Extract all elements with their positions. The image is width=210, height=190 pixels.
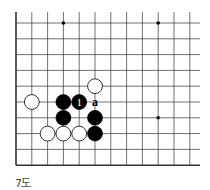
- star-point: [62, 21, 66, 25]
- black-stone: [88, 126, 103, 141]
- point-marker: a: [92, 95, 98, 109]
- black-stone: [88, 110, 103, 125]
- white-stone: [40, 126, 55, 141]
- go-board: 1a: [0, 0, 210, 172]
- star-point: [156, 116, 160, 120]
- diagram-caption: 7도: [15, 174, 31, 190]
- white-stone: [56, 126, 71, 141]
- black-stone: [56, 95, 71, 110]
- white-stone: [88, 79, 103, 94]
- move-number: 1: [76, 96, 82, 108]
- white-stone: [24, 95, 39, 110]
- star-point: [156, 21, 160, 25]
- black-stone: [56, 110, 71, 125]
- white-stone: [72, 126, 87, 141]
